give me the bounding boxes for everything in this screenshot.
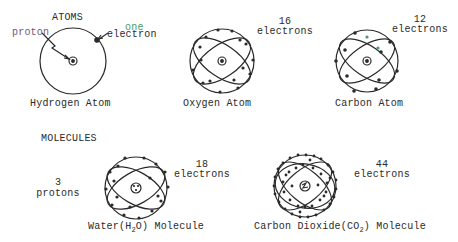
molecules-heading: MOLECULES xyxy=(41,134,97,144)
co2-molecule-label: Carbon Dioxide(CO2) Molecule xyxy=(254,222,426,232)
atoms-heading: ATOMS xyxy=(52,13,83,23)
water-molecule-label: Water(H2O) Molecule xyxy=(88,222,204,232)
co2-molecule-drawing xyxy=(270,153,340,219)
water-proton-word: protons xyxy=(33,189,83,199)
water-proton-count: 3 xyxy=(33,178,83,188)
diagram-canvas xyxy=(0,0,458,242)
carbon-electron-word: electrons xyxy=(388,25,452,35)
hydrogen-atom-drawing xyxy=(40,28,108,94)
oxygen-electron-word: electrons xyxy=(255,27,315,37)
carbon-atom-drawing xyxy=(332,30,402,93)
oxygen-atom-drawing xyxy=(186,28,258,93)
water-molecule-drawing xyxy=(100,156,171,219)
electron-label: electron xyxy=(107,30,157,40)
water-electron-word: electrons xyxy=(170,170,234,180)
proton-label: proton xyxy=(12,28,49,38)
hydrogen-atom-label: Hydrogen Atom xyxy=(30,99,111,109)
co2-electron-word: electrons xyxy=(350,170,414,180)
oxygen-atom-label: Oxygen Atom xyxy=(183,99,251,109)
carbon-atom-label: Carbon Atom xyxy=(335,99,403,109)
